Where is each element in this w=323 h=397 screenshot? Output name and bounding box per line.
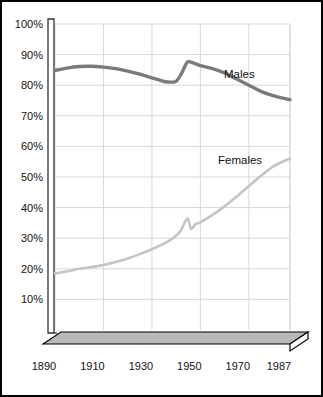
y-tick-label: 60% xyxy=(21,140,43,152)
line-chart: 100%90%80%70%60%50%40%30%20%10% 18901910… xyxy=(2,2,321,395)
y-tick-label: 70% xyxy=(21,110,43,122)
series-line-males xyxy=(55,62,290,100)
gridlines xyxy=(55,24,290,330)
series-label-females: Females xyxy=(218,154,262,166)
y-tick-label: 20% xyxy=(21,263,43,275)
series-label-males: Males xyxy=(224,68,255,80)
y-tick-label: 90% xyxy=(21,49,43,61)
series-lines xyxy=(55,62,290,274)
x-axis-tick-labels: 189019101930195019701987 xyxy=(32,360,291,372)
y-tick-label: 40% xyxy=(21,202,43,214)
x-tick-label: 1950 xyxy=(177,360,201,372)
series-line-females xyxy=(55,159,290,274)
axis-base-plate-3d xyxy=(43,332,308,351)
y-tick-label: 80% xyxy=(21,79,43,91)
x-tick-label: 1970 xyxy=(226,360,250,372)
y-tick-label: 50% xyxy=(21,171,43,183)
y-tick-label: 10% xyxy=(21,293,43,305)
x-tick-label: 1910 xyxy=(80,360,104,372)
y-tick-label: 30% xyxy=(21,232,43,244)
chart-frame: 100%90%80%70%60%50%40%30%20%10% 18901910… xyxy=(0,0,323,397)
y-tick-label: 100% xyxy=(15,18,43,30)
x-tick-label: 1930 xyxy=(129,360,153,372)
y-axis-3d-bar xyxy=(48,19,57,333)
x-tick-label: 1987 xyxy=(267,360,291,372)
y-axis-tick-labels: 100%90%80%70%60%50%40%30%20%10% xyxy=(15,18,43,305)
x-tick-label: 1890 xyxy=(32,360,56,372)
